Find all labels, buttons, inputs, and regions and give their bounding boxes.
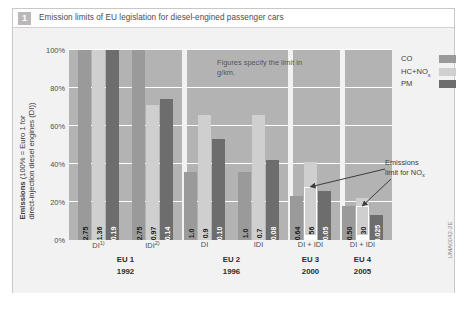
figure-number: 1: [18, 12, 31, 25]
annotation-arrows: [13, 28, 456, 293]
figure-title: Emission limits of EU legislation for di…: [39, 13, 284, 22]
figure-panel: 1 Emission limits of EU legislation for …: [12, 8, 455, 293]
annotation-arrow: [311, 169, 386, 187]
annotation-arrow: [363, 179, 392, 206]
figure-source-code: UMA0042-2E: [443, 197, 455, 283]
figure-source-code-text: UMA0042-2E: [446, 221, 453, 258]
figure-title-bar: 1 Emission limits of EU legislation for …: [13, 9, 454, 28]
chart-canvas: Emissions (100% = Euro 1 fordirect-injec…: [13, 28, 454, 293]
